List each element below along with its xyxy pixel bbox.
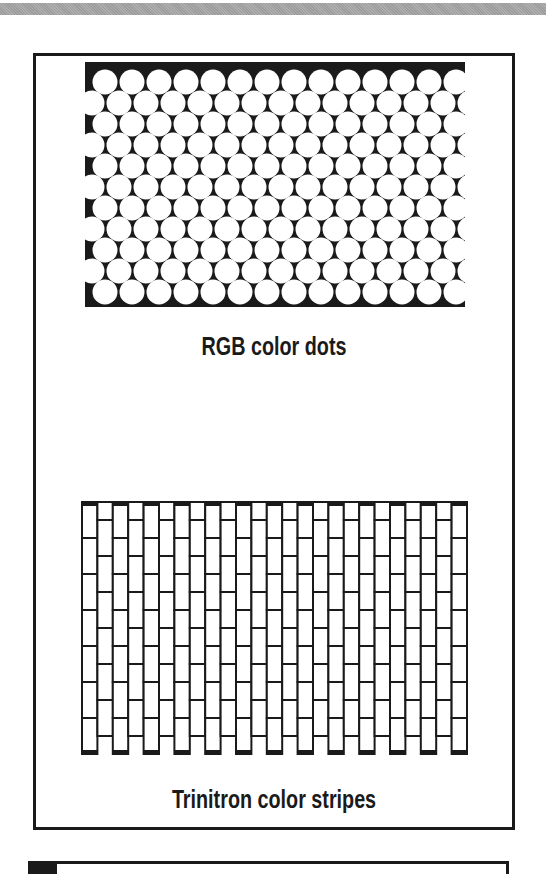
- figure-frame: RGB color dots Trinitron color stripes: [33, 53, 515, 830]
- rgb-dots-caption: RGB color dots: [93, 333, 455, 359]
- trinitron-stripe-pattern: [82, 502, 467, 754]
- rgb-dot-pattern: [85, 62, 465, 307]
- trinitron-caption: Trinitron color stripes: [93, 786, 455, 812]
- page-top-rule: [0, 3, 546, 15]
- scanned-page: { "page": { "background": "#ffffff", "in…: [0, 0, 546, 874]
- next-figure-frame: [57, 861, 509, 874]
- next-figure-tab: [28, 861, 57, 874]
